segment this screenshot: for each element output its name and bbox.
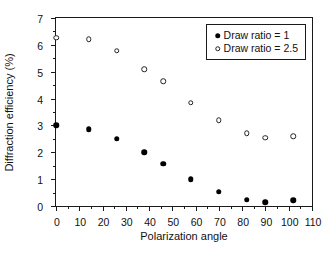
x-tick-minor (300, 206, 301, 209)
data-point-open (216, 117, 222, 123)
data-point-open (53, 35, 59, 41)
y-tick-label: 2 (37, 148, 43, 159)
data-point-filled (216, 189, 222, 195)
x-tick-minor (254, 206, 255, 209)
x-tick: 60 (196, 206, 197, 211)
x-tick-label: 110 (305, 217, 322, 228)
x-tick-minor (161, 206, 162, 209)
legend-item-draw-ratio-1: Draw ratio = 1 (212, 29, 298, 42)
y-tick-minor (53, 85, 56, 86)
x-tick-minor (68, 206, 69, 209)
x-tick-label: 100 (281, 217, 299, 228)
x-tick: 70 (219, 206, 220, 211)
y-tick-label: 0 (37, 202, 43, 213)
x-tick-label: 30 (121, 217, 133, 228)
legend: Draw ratio = 1 Draw ratio = 2.5 (206, 24, 306, 60)
x-tick-minor (91, 206, 92, 209)
legend-label: Draw ratio = 1 (224, 30, 290, 41)
legend-item-draw-ratio-2-5: Draw ratio = 2.5 (212, 42, 298, 55)
y-tick-minor (53, 139, 56, 140)
y-tick: 1 (51, 179, 56, 180)
x-tick-minor (207, 206, 208, 209)
x-tick: 10 (79, 206, 80, 211)
x-tick-minor (184, 206, 185, 209)
y-tick-label: 1 (37, 175, 43, 186)
x-tick: 30 (126, 206, 127, 211)
y-axis-title: Diffraction efficiency (%) (2, 17, 16, 207)
data-point-filled (188, 176, 194, 182)
y-tick: 6 (51, 45, 56, 46)
x-tick-label: 50 (168, 217, 180, 228)
x-tick-minor (137, 206, 138, 209)
open-circle-marker-icon (212, 43, 224, 55)
x-tick-label: 60 (191, 217, 203, 228)
x-tick-minor (114, 206, 115, 209)
x-tick: 90 (265, 206, 266, 211)
y-tick-label: 6 (37, 41, 43, 52)
y-tick: 2 (51, 152, 56, 153)
x-tick-label: 70 (214, 217, 226, 228)
x-tick: 50 (172, 206, 173, 211)
data-point-open (291, 133, 297, 139)
x-axis-title: Polarization angle (55, 231, 313, 242)
data-point-filled (160, 161, 166, 167)
data-point-filled (291, 197, 297, 203)
data-point-filled (263, 199, 269, 205)
x-tick: 0 (56, 206, 57, 211)
y-tick: 4 (51, 99, 56, 100)
y-tick-minor (53, 166, 56, 167)
y-axis-title-text: Diffraction efficiency (%) (4, 53, 15, 171)
y-tick-minor (53, 112, 56, 113)
x-axis-title-text: Polarization angle (140, 230, 227, 242)
x-tick: 20 (103, 206, 104, 211)
y-tick-minor (53, 193, 56, 194)
data-point-open (263, 135, 269, 141)
data-point-filled (53, 123, 59, 129)
data-point-open (160, 78, 166, 84)
data-point-filled (244, 197, 250, 203)
x-tick-minor (277, 206, 278, 209)
x-tick-label: 40 (144, 217, 156, 228)
x-tick: 110 (312, 206, 313, 211)
data-point-filled (86, 127, 92, 133)
y-tick-label: 5 (37, 67, 43, 78)
data-point-open (188, 100, 194, 106)
x-tick-minor (231, 206, 232, 209)
data-point-open (86, 37, 92, 43)
x-tick-label: 0 (54, 217, 60, 228)
scatter-chart-figure: Diffraction efficiency (%) 01234567 0102… (0, 0, 335, 254)
y-tick-minor (53, 58, 56, 59)
x-tick-label: 80 (237, 217, 249, 228)
x-tick: 80 (242, 206, 243, 211)
x-tick-label: 10 (74, 217, 86, 228)
filled-circle-marker-icon (212, 30, 224, 42)
x-tick-label: 90 (261, 217, 273, 228)
y-tick: 7 (51, 18, 56, 19)
y-tick-minor (53, 31, 56, 32)
legend-label: Draw ratio = 2.5 (224, 43, 298, 54)
x-tick: 100 (289, 206, 290, 211)
y-tick-label: 4 (37, 94, 43, 105)
y-tick-label: 7 (37, 14, 43, 25)
data-point-open (114, 48, 120, 54)
data-point-filled (114, 136, 120, 142)
plot-area: 01234567 0102030405060708090100110 Draw … (55, 17, 313, 207)
x-tick: 40 (149, 206, 150, 211)
y-tick-label: 3 (37, 121, 43, 132)
data-point-open (244, 131, 250, 137)
data-point-filled (142, 150, 148, 156)
data-point-open (142, 66, 148, 72)
y-tick: 5 (51, 72, 56, 73)
x-tick-label: 20 (98, 217, 110, 228)
